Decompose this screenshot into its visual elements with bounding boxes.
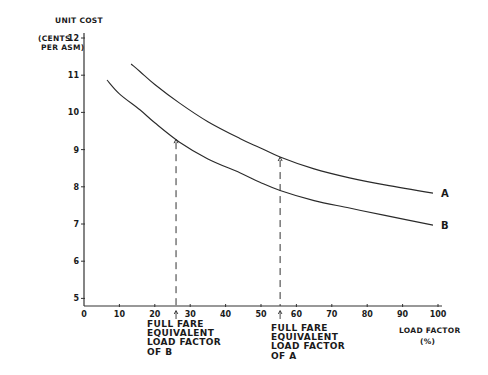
x-axis-title: LOAD FACTOR (%) <box>399 326 460 346</box>
curve-label-b: B <box>441 220 449 231</box>
y-axis-title-line-1: UNIT COST <box>55 16 104 25</box>
y-tick-label: 12 <box>68 34 79 43</box>
y-tick-label: 11 <box>68 71 80 80</box>
y-tick-label: 8 <box>73 183 79 192</box>
x-tick-label: 100 <box>430 310 447 319</box>
unit-cost-vs-load-factor-chart: UNIT COST (CENTS PER ASM) 56789101112 01… <box>0 0 488 375</box>
y-tick-label: 7 <box>73 220 79 229</box>
x-tick-label: 90 <box>397 310 409 319</box>
y-tick-label: 10 <box>68 108 80 117</box>
x-tick-label: 0 <box>81 310 87 319</box>
x-tick-label: 40 <box>220 310 232 319</box>
curves: AB <box>107 64 449 231</box>
annotation-a-text-line: OF A <box>271 351 297 361</box>
x-tick-label: 50 <box>255 310 267 319</box>
x-tick-label: 80 <box>362 310 374 319</box>
x-axis-title-line-1: LOAD FACTOR <box>399 326 460 335</box>
y-axis-title-line-2: (CENTS <box>38 34 71 43</box>
y-axis-ticks: 56789101112 <box>68 34 85 303</box>
curve-label-a: A <box>441 188 449 199</box>
curve-a <box>131 64 433 193</box>
y-tick-label: 5 <box>73 294 79 303</box>
axes <box>84 33 442 306</box>
x-tick-label: 10 <box>114 310 126 319</box>
x-axis-title-line-2: (%) <box>420 337 435 346</box>
y-tick-label: 6 <box>73 257 79 266</box>
x-tick-label: 20 <box>149 310 161 319</box>
annotations: FULL FAREEQUIVALENTLOAD FACTOROF BFULL F… <box>147 139 345 360</box>
y-tick-label: 9 <box>73 146 79 155</box>
annotation-b-text-line: OF B <box>147 347 172 357</box>
chart-canvas: UNIT COST (CENTS PER ASM) 56789101112 01… <box>0 0 488 375</box>
x-tick-label: 70 <box>326 310 338 319</box>
y-axis-title-line-3: PER ASM) <box>41 43 85 52</box>
x-tick-label: 30 <box>185 310 197 319</box>
x-tick-label: 60 <box>291 310 303 319</box>
